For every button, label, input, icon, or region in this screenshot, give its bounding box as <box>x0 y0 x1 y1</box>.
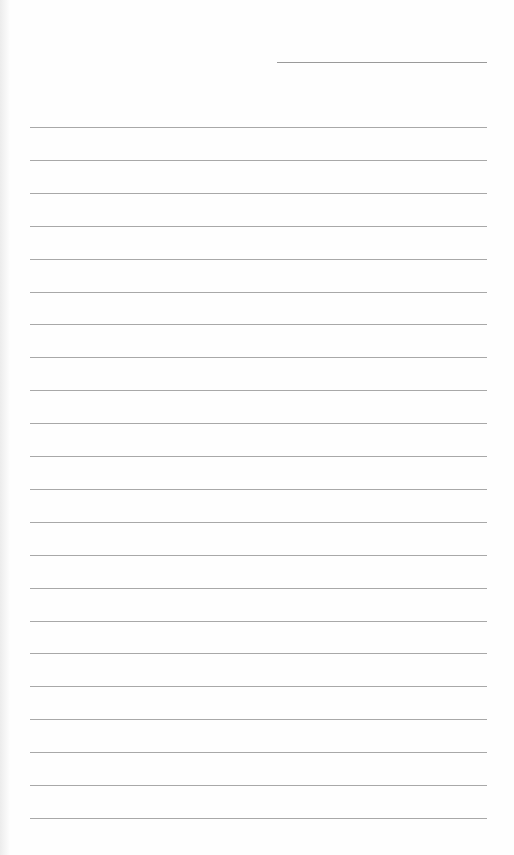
ruled-line <box>30 357 487 358</box>
ruled-line <box>30 686 487 687</box>
ruled-line <box>30 456 487 457</box>
ruled-line <box>30 489 487 490</box>
ruled-line <box>30 621 487 622</box>
ruled-line <box>30 390 487 391</box>
ruled-line <box>30 292 487 293</box>
ruled-line <box>30 555 487 556</box>
ruled-line <box>30 259 487 260</box>
ruled-line <box>30 193 487 194</box>
ruled-line <box>30 324 487 325</box>
ruled-line <box>30 818 487 819</box>
notebook-page <box>0 0 514 855</box>
ruled-line <box>30 653 487 654</box>
ruled-line <box>30 752 487 753</box>
ruled-line <box>30 719 487 720</box>
ruled-line <box>30 423 487 424</box>
page-edge-shadow <box>0 0 10 855</box>
header-title-line <box>277 62 487 63</box>
ruled-line <box>30 785 487 786</box>
ruled-line <box>30 226 487 227</box>
ruled-line <box>30 127 487 128</box>
ruled-line <box>30 160 487 161</box>
ruled-line <box>30 588 487 589</box>
ruled-line <box>30 522 487 523</box>
